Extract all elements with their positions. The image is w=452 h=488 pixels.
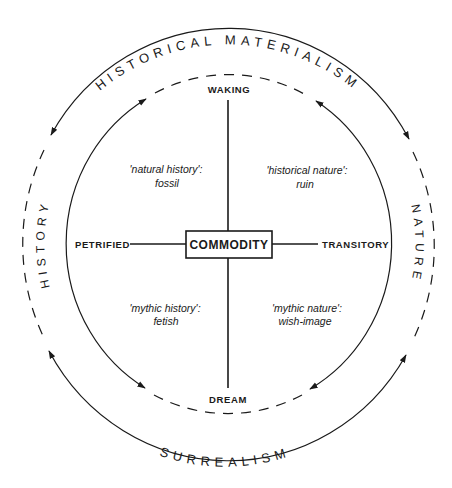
quadrant-bottom-left-term: 'mythic history': — [129, 302, 200, 314]
center-box: COMMODITY — [186, 231, 272, 258]
pole-bottom-label: DREAM — [209, 394, 247, 405]
center-label: COMMODITY — [189, 238, 268, 252]
quadrant-top-right-image: ruin — [296, 178, 314, 190]
commodity-dialectics-diagram: COMMODITY WAKING DREAM PETRIFIED TRANSIT… — [0, 0, 452, 488]
arc-label-left: HISTORY — [33, 198, 52, 290]
quadrant-bottom-right-term: 'mythic nature': — [272, 302, 342, 314]
quadrant-top-left-term: 'natural history': — [130, 163, 203, 175]
quadrant-top-right-term: 'historical nature': — [266, 164, 347, 176]
arc-label-right: NATURE — [408, 203, 426, 285]
quadrant-bottom-right-image: wish-image — [278, 315, 331, 327]
quadrant-top-left-image: fossil — [155, 177, 180, 189]
pole-left-label: PETRIFIED — [75, 239, 130, 250]
pole-top-label: WAKING — [208, 84, 251, 95]
quadrant-bottom-left-image: fetish — [153, 315, 178, 327]
arc-label-bottom: SURREALISM — [158, 444, 292, 470]
pole-right-label: TRANSITORY — [322, 239, 389, 250]
